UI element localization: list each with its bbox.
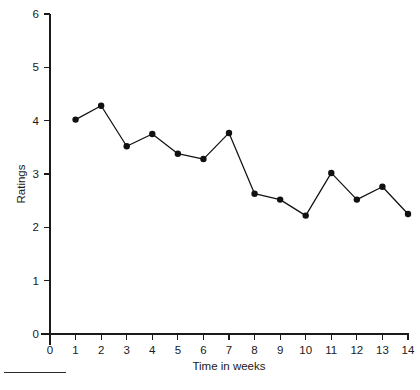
y-tick-label: 3 — [33, 168, 39, 180]
data-point-marker — [405, 211, 411, 217]
data-point-marker — [277, 196, 283, 202]
y-tick-label: 4 — [33, 115, 40, 127]
y-axis-tick-labels: 0123456 — [33, 8, 40, 340]
x-tick-label: 8 — [251, 344, 257, 356]
x-axis-tick-labels: 01234567891011121314 — [47, 344, 415, 356]
y-tick-label: 0 — [33, 328, 39, 340]
x-tick-label: 9 — [277, 344, 283, 356]
x-tick-label: 1 — [72, 344, 78, 356]
data-point-marker — [251, 191, 257, 197]
x-tick-label: 14 — [402, 344, 415, 356]
data-point-marker — [200, 156, 206, 162]
data-point-marker — [124, 143, 130, 149]
y-tick-label: 2 — [33, 221, 39, 233]
chart-container: 0123456 01234567891011121314 Time in wee… — [0, 0, 420, 390]
footer-rule — [4, 372, 66, 373]
y-tick-label: 5 — [33, 61, 39, 73]
axes-group — [41, 14, 409, 345]
data-point-marker — [303, 212, 309, 218]
x-tick-label: 6 — [200, 344, 206, 356]
y-axis-title: Ratings — [15, 164, 27, 203]
data-point-marker — [72, 116, 78, 122]
y-axis-ticks — [44, 14, 50, 334]
x-tick-label: 10 — [299, 344, 312, 356]
x-axis-title: Time in weeks — [192, 360, 265, 372]
data-point-marker — [328, 170, 334, 176]
x-tick-label: 3 — [124, 344, 130, 356]
data-point-marker — [379, 184, 385, 190]
x-tick-label: 11 — [325, 344, 337, 356]
data-point-marker — [226, 130, 232, 136]
series-markers-group — [72, 103, 411, 219]
data-point-marker — [98, 103, 104, 109]
x-tick-label: 12 — [350, 344, 363, 356]
x-axis-ticks — [50, 334, 408, 340]
y-tick-label: 6 — [33, 8, 39, 20]
data-point-marker — [149, 131, 155, 137]
x-tick-label: 2 — [98, 344, 104, 356]
line-chart: 0123456 01234567891011121314 Time in wee… — [0, 0, 420, 390]
x-tick-label: 5 — [175, 344, 181, 356]
data-point-marker — [354, 196, 360, 202]
x-tick-label: 7 — [226, 344, 232, 356]
y-tick-label: 1 — [33, 275, 39, 287]
x-tick-label: 4 — [149, 344, 156, 356]
data-point-marker — [175, 151, 181, 157]
x-tick-label: 0 — [47, 344, 53, 356]
x-tick-label: 13 — [376, 344, 389, 356]
